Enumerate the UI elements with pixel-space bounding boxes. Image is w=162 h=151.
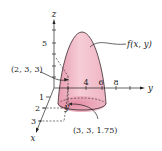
x-tick-2: 2: [35, 104, 40, 113]
surface-fxy: [58, 32, 106, 112]
surface-label: f(x, y): [126, 39, 152, 49]
y-axis-label: y: [147, 83, 153, 93]
leader-surface: [90, 43, 126, 47]
z-axis-arrow-icon: [53, 19, 56, 24]
x-tick-3: 3: [31, 117, 36, 126]
x-tick-1: 1: [39, 93, 44, 102]
surface-diagram: 5 4 6 8 1 2 3 z y x y f(x, y) (2, 3, 3) …: [0, 0, 162, 151]
z-tick-5: 5: [42, 39, 47, 48]
x-axis-label: x: [31, 133, 36, 143]
y-foot-label: y: [64, 102, 70, 112]
y-tick-6: 6: [98, 78, 103, 87]
point-bottom-label: (3, 3, 1.75): [73, 126, 117, 135]
y-axis-arrow-icon: [140, 87, 145, 90]
y-tick-4: 4: [83, 78, 88, 87]
z-axis-label: z: [51, 9, 57, 19]
x-axis-arrow-icon: [36, 128, 39, 134]
y-tick-8: 8: [113, 78, 118, 87]
point-top-label: (2, 3, 3): [11, 65, 43, 74]
